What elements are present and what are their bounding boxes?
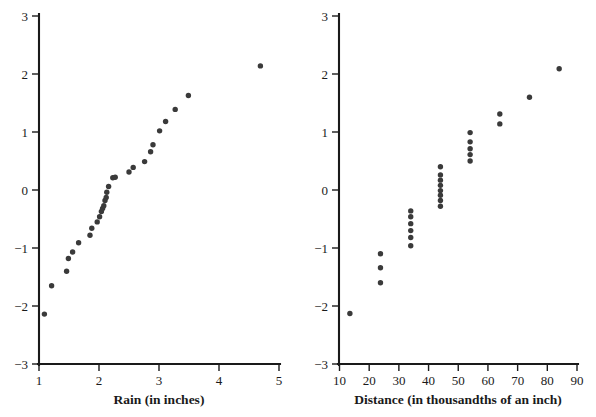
data-point [408,228,413,233]
data-point [70,249,75,254]
y-tick-label: −1 [314,241,328,256]
data-point [66,256,71,261]
y-tick-label: 0 [322,183,329,198]
scatter-panel-rain: −3−2−1012312345 Rain (in inches) [0,0,298,417]
data-point [467,139,472,144]
x-tick-label: 1 [36,373,43,388]
data-point [95,219,100,224]
y-tick-label: 1 [322,125,329,140]
data-point [408,208,413,213]
data-point [378,265,383,270]
data-point [438,188,443,193]
figure-root: −3−2−1012312345 Rain (in inches) −3−2−10… [0,0,596,417]
data-point [438,183,443,188]
data-point [438,164,443,169]
data-point [408,235,413,240]
scatter-panel-distance: −3−2−10123102030405060708090 Distance (i… [298,0,596,417]
data-points-distance [347,66,562,316]
data-point [173,107,178,112]
x-axis-title-rain: Rain (in inches) [114,392,205,407]
axes-distance [338,14,578,365]
data-point [186,93,191,98]
data-point [347,311,352,316]
data-point [131,165,136,170]
data-point [556,66,561,71]
data-point [101,203,106,208]
x-axis-title-distance: Distance (in thousandths of an inch) [354,392,561,407]
y-tick-label: −2 [14,299,28,314]
data-point [378,280,383,285]
data-point [258,63,263,68]
x-tick-label: 10 [333,373,346,388]
data-point [467,146,472,151]
data-point [467,158,472,163]
data-point [527,95,532,100]
x-tick-label: 2 [96,373,103,388]
data-point [467,152,472,157]
x-tick-label: 60 [481,373,494,388]
x-tick-label: 50 [452,373,465,388]
data-point [378,251,383,256]
x-tick-label: 5 [276,373,283,388]
data-point [467,130,472,135]
data-point [438,193,443,198]
y-tick-label: 2 [322,67,329,82]
data-point [157,128,162,133]
data-point [76,240,81,245]
data-point [106,184,111,189]
data-point [497,111,502,116]
data-point [438,204,443,209]
data-point [408,214,413,219]
data-point [408,243,413,248]
data-points-rain [42,63,263,317]
y-tick-label: 3 [22,9,29,24]
y-tick-label: 2 [22,67,29,82]
y-tick-label: −1 [14,241,28,256]
y-tick-label: 0 [22,183,29,198]
data-point [438,198,443,203]
data-point [163,119,168,124]
x-tick-label: 90 [571,373,584,388]
y-tick-label: −3 [14,357,28,372]
x-tick-label: 20 [363,373,376,388]
data-point [87,233,92,238]
data-point [49,283,54,288]
data-point [497,121,502,126]
data-point [408,221,413,226]
tick-group-distance: −3−2−10123102030405060708090 [314,9,583,389]
data-point [64,269,69,274]
axes-rain [38,14,280,365]
data-point [438,177,443,182]
data-point [97,214,102,219]
y-tick-label: 3 [322,9,329,24]
data-point [148,149,153,154]
data-point [42,311,47,316]
x-tick-label: 30 [392,373,405,388]
y-tick-label: −3 [314,357,328,372]
data-point [104,190,109,195]
x-tick-label: 70 [511,373,524,388]
data-point [89,226,94,231]
x-tick-label: 3 [156,373,163,388]
plot-canvas-rain: −3−2−1012312345 Rain (in inches) [0,0,298,417]
x-tick-label: 80 [541,373,554,388]
x-tick-label: 40 [422,373,435,388]
data-point [142,159,147,164]
plot-canvas-distance: −3−2−10123102030405060708090 Distance (i… [298,0,596,417]
data-point [438,172,443,177]
data-point [104,195,109,200]
data-point [126,169,131,174]
tick-group-rain: −3−2−1012312345 [14,9,282,389]
data-point [150,142,155,147]
data-point [113,175,118,180]
y-tick-label: −2 [314,299,328,314]
x-tick-label: 4 [216,373,223,388]
y-tick-label: 1 [22,125,29,140]
